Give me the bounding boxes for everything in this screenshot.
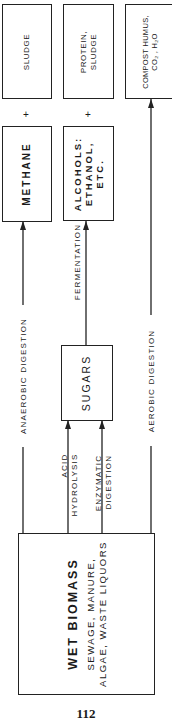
methane-box: METHANE — [2, 126, 52, 222]
compost-line-2: CO₂ , H₂O — [150, 15, 159, 89]
alcohols-label: ALCOHOLS: ETHANOL, ETC. — [72, 136, 105, 210]
compost-label: COMPOST HUMUS, CO₂ , H₂O — [141, 15, 160, 89]
protein-line-2: SLUDGE — [89, 30, 99, 73]
protein-line-1: PROTEIN, — [79, 30, 89, 73]
plus-sign-alcohols: + — [85, 109, 91, 120]
sugars-box: SUGARS — [61, 345, 113, 421]
anaerobic-digestion-label: ANAEROBIC DIGESTION — [19, 318, 29, 434]
alcohols-line-3: ETC. — [94, 136, 105, 210]
sludge-label: SLUDGE — [22, 33, 32, 70]
sugars-label: SUGARS — [80, 355, 93, 411]
acid-line-2: HYDROLYSIS — [70, 454, 80, 517]
enzymatic-line-1: ENZYMATIC — [94, 455, 104, 511]
acid-line-1: ACID — [60, 454, 70, 517]
acid-hydrolysis-label: ACID HYDROLYSIS — [60, 454, 81, 517]
enzymatic-digestion-label: ENZYMATIC DIGESTION — [94, 455, 115, 511]
plus-sign-methane: + — [23, 109, 29, 120]
protein-sludge-box: PROTEIN, SLUDGE — [63, 4, 114, 99]
protein-sludge-label: PROTEIN, SLUDGE — [79, 30, 99, 73]
compost-line-1: COMPOST HUMUS, — [141, 15, 150, 89]
alcohols-line-1: ALCOHOLS: — [72, 136, 83, 210]
alcohols-line-2: ETHANOL, — [83, 136, 94, 210]
sludge-box: SLUDGE — [2, 4, 52, 99]
wet-biomass-label: WET BIOMASS SEWAGE, MANURE, ALGAE, WASTE… — [65, 541, 107, 687]
wet-biomass-title: WET BIOMASS — [65, 541, 81, 687]
alcohols-box: ALCOHOLS: ETHANOL, ETC. — [63, 126, 114, 221]
fermentation-label: FERMENTATION — [73, 224, 83, 300]
enzymatic-line-2: DIGESTION — [104, 455, 114, 511]
methane-label: METHANE — [21, 142, 34, 205]
wet-biomass-box: WET BIOMASS SEWAGE, MANURE, ALGAE, WASTE… — [18, 533, 155, 695]
wet-biomass-line-2: ALGAE, WASTE LIQUORS — [96, 541, 108, 687]
compost-box: COMPOST HUMUS, CO₂ , H₂O — [125, 4, 172, 99]
page-number: 112 — [77, 706, 96, 722]
aerobic-digestion-label: AEROBIC DIGESTION — [147, 330, 157, 433]
wet-biomass-line-1: SEWAGE, MANURE, — [84, 541, 96, 687]
